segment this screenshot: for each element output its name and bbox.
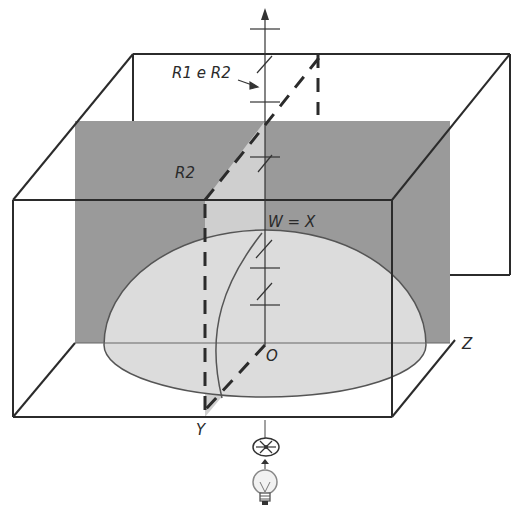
label-r1-r2: R1 e R2 <box>172 66 231 81</box>
label-axis-z: Z <box>462 337 472 352</box>
label-w-equals-x: W = X <box>268 215 315 230</box>
diagram-canvas: R1 e R2 R2 W = X O Y Z <box>0 0 523 513</box>
label-origin: O <box>266 349 278 364</box>
label-axis-y: Y <box>196 423 205 438</box>
label-r2: R2 <box>175 166 195 181</box>
polarizer-disc-icon <box>252 436 280 458</box>
light-bulb-icon <box>251 468 279 510</box>
label-arrow <box>238 80 258 89</box>
